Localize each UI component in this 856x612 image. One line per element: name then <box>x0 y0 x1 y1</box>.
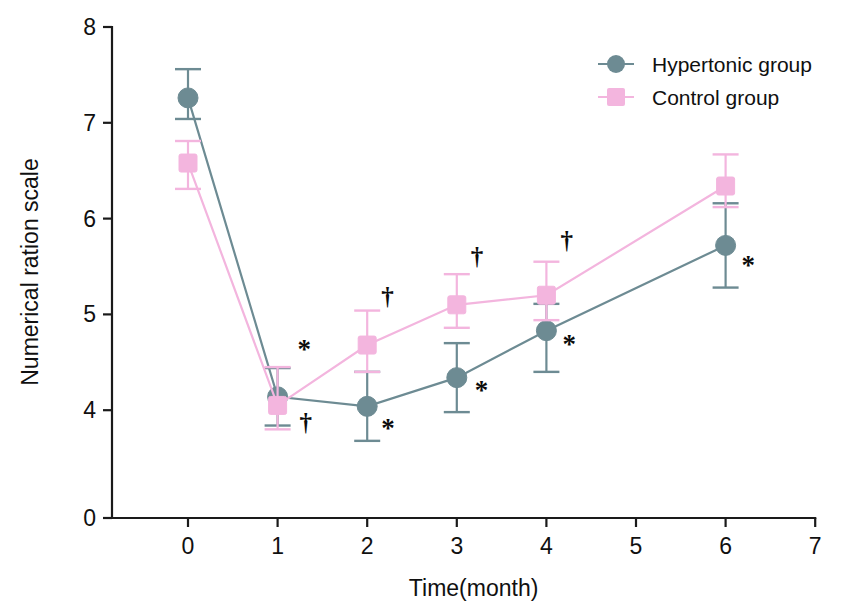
legend-marker-square <box>607 88 625 106</box>
y-tick-label-6: 6 <box>83 206 96 232</box>
annotation-asterisk: * <box>742 250 756 280</box>
series-hypertonic <box>175 69 739 441</box>
annotation-asterisk: * <box>475 375 489 405</box>
x-tick-label-2: 2 <box>361 533 374 559</box>
y-axis-title: Numerical ration scale <box>17 158 43 386</box>
x-tick-label-1: 1 <box>271 533 284 559</box>
data-point-marker <box>537 286 555 304</box>
legend-label: Control group <box>652 86 779 109</box>
annotation-asterisk: * <box>562 329 576 359</box>
x-tick-label-0: 0 <box>182 533 195 559</box>
data-point-marker <box>716 235 736 255</box>
data-point-marker <box>358 336 376 354</box>
annotation-asterisk: * <box>381 413 395 443</box>
data-series <box>175 69 739 441</box>
annotation-dagger: † <box>300 409 313 436</box>
legend-item-control: Control group <box>598 86 779 109</box>
data-point-marker <box>178 88 198 108</box>
y-tick-label-5: 5 <box>83 301 96 327</box>
chart-figure: 04567801234567 *††*†*†** Hypertonic grou… <box>0 0 856 612</box>
chart-legend: Hypertonic groupControl group <box>598 53 812 109</box>
y-tick-label-7: 7 <box>83 110 96 136</box>
data-point-marker <box>269 396 287 414</box>
x-tick-label-4: 4 <box>540 533 553 559</box>
x-tick-label-5: 5 <box>630 533 643 559</box>
data-point-marker <box>448 296 466 314</box>
data-point-marker <box>717 177 735 195</box>
data-point-marker <box>447 368 467 388</box>
legend-label: Hypertonic group <box>652 53 812 76</box>
annotation-asterisk: * <box>298 334 312 364</box>
y-tick-label-8: 8 <box>83 14 96 40</box>
legend-item-hypertonic: Hypertonic group <box>598 53 812 76</box>
data-point-marker <box>179 154 197 172</box>
annotation-dagger: † <box>381 283 394 310</box>
y-tick-label-4: 4 <box>83 397 96 423</box>
annotation-dagger: † <box>560 227 573 254</box>
x-tick-label-3: 3 <box>450 533 463 559</box>
line-chart-svg: 04567801234567 *††*†*†** Hypertonic grou… <box>0 0 856 612</box>
data-point-marker <box>357 396 377 416</box>
x-tick-label-6: 6 <box>719 533 732 559</box>
y-tick-label-0: 0 <box>83 505 96 531</box>
x-axis-title: Time(month) <box>409 575 539 601</box>
data-point-marker <box>536 321 556 341</box>
annotation-dagger: † <box>471 243 484 270</box>
x-tick-label-7: 7 <box>809 533 822 559</box>
legend-marker-circle <box>607 55 625 73</box>
